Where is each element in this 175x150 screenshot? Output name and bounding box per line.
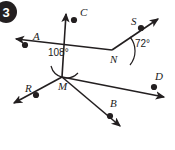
line-ad-right [62, 77, 164, 97]
point-label-a: A [32, 30, 40, 42]
point-dot-a [22, 42, 28, 48]
point-labels-group: A C S D B R [24, 6, 163, 109]
line-rc-upper [62, 14, 66, 77]
angle-label-72: 72° [135, 38, 150, 49]
question-number-badge: 3 [0, 1, 17, 23]
geometry-diagram: A C S D B R M N 108° 72° 3 [0, 0, 175, 150]
point-label-c: C [80, 6, 88, 18]
geometry-figure: A C S D B R M N 108° 72° 3 [0, 0, 175, 150]
point-label-d: D [154, 70, 163, 82]
line-rc-lower [14, 77, 62, 103]
intersection-label-m: M [57, 80, 68, 92]
point-dot-b [107, 113, 113, 119]
point-label-s: S [131, 15, 137, 27]
point-dot-r [33, 92, 39, 98]
point-label-b: B [110, 97, 117, 109]
point-dot-c [71, 17, 77, 23]
angle-arc-108 [51, 66, 78, 78]
angle-label-108: 108° [48, 47, 69, 58]
badge-number: 3 [2, 5, 9, 20]
point-dot-d [151, 84, 157, 90]
point-dots-group [22, 17, 157, 119]
point-dot-s [138, 25, 144, 31]
point-label-r: R [24, 82, 32, 94]
intersection-label-n: N [109, 53, 118, 65]
